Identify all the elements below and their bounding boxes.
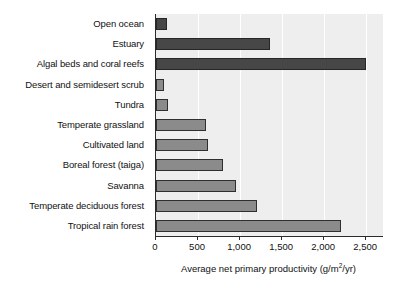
tick-mark xyxy=(197,236,198,240)
tick-label: 2,500 xyxy=(353,241,377,252)
bar xyxy=(156,180,236,192)
value-axis-ticks: 05001,0001,5002,0002,500 xyxy=(155,236,382,241)
bar-row xyxy=(156,115,383,135)
category-label: Estuary xyxy=(112,39,144,49)
category-label-row: Estuary xyxy=(0,34,150,54)
bar-row xyxy=(156,95,383,115)
category-axis-labels: Open oceanEstuaryAlgal beds and coral re… xyxy=(0,14,150,236)
category-label-row: Savanna xyxy=(0,176,150,196)
tick-mark xyxy=(281,236,282,240)
tick-label: 500 xyxy=(189,241,205,252)
category-label: Temperate grassland xyxy=(57,120,144,130)
category-label: Boreal forest (taiga) xyxy=(63,160,144,170)
bar-chart: Open oceanEstuaryAlgal beds and coral re… xyxy=(0,0,396,291)
bar xyxy=(156,79,164,91)
category-label-row: Algal beds and coral reefs xyxy=(0,54,150,74)
category-label: Open ocean xyxy=(93,19,144,29)
category-label: Cultivated land xyxy=(83,140,144,150)
bar-row xyxy=(156,176,383,196)
category-label-row: Open ocean xyxy=(0,14,150,34)
category-label-row: Desert and semidesert scrub xyxy=(0,75,150,95)
category-label-row: Tundra xyxy=(0,95,150,115)
category-label: Tundra xyxy=(115,100,144,110)
bar xyxy=(156,38,270,50)
bar-row xyxy=(156,75,383,95)
tick-mark xyxy=(323,236,324,240)
bar-row xyxy=(156,155,383,175)
bar xyxy=(156,18,167,30)
bar xyxy=(156,200,257,212)
category-label: Savanna xyxy=(107,181,144,191)
tick-label: 2,000 xyxy=(311,241,335,252)
bar-row xyxy=(156,216,383,236)
bar-row xyxy=(156,54,383,74)
category-label: Algal beds and coral reefs xyxy=(37,59,144,69)
category-label-row: Tropical rain forest xyxy=(0,216,150,236)
bars-layer xyxy=(156,14,383,236)
bar-row xyxy=(156,14,383,34)
bar xyxy=(156,58,366,70)
bar-row xyxy=(156,34,383,54)
tick-label: 1,500 xyxy=(269,241,293,252)
tick-mark xyxy=(155,236,156,240)
bar xyxy=(156,99,168,111)
tick-mark xyxy=(365,236,366,240)
category-label: Desert and semidesert scrub xyxy=(25,80,144,90)
bar xyxy=(156,220,341,232)
plot-area xyxy=(155,14,383,237)
x-axis-title: Average net primary productivity (g/m2/y… xyxy=(155,263,382,274)
category-label-row: Temperate deciduous forest xyxy=(0,196,150,216)
tick-label: 0 xyxy=(152,241,157,252)
bar xyxy=(156,139,208,151)
bar-row xyxy=(156,135,383,155)
x-axis-title-suffix: /yr) xyxy=(342,263,356,274)
category-label: Temperate deciduous forest xyxy=(29,201,144,211)
bar-row xyxy=(156,196,383,216)
category-label: Tropical rain forest xyxy=(68,221,144,231)
x-axis-title-main: Average net primary productivity (g/m xyxy=(181,263,339,274)
tick-label: 1,000 xyxy=(227,241,251,252)
category-label-row: Cultivated land xyxy=(0,135,150,155)
category-label-row: Temperate grassland xyxy=(0,115,150,135)
bar xyxy=(156,159,223,171)
tick-mark xyxy=(239,236,240,240)
category-label-row: Boreal forest (taiga) xyxy=(0,155,150,175)
bar xyxy=(156,119,206,131)
